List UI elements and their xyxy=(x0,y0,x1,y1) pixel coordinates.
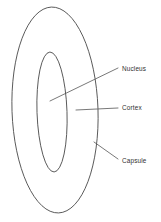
diagram-canvas: Nucleus Cortex Capsule xyxy=(0,0,161,222)
nucleus-leader-line xyxy=(50,68,118,101)
nucleus-inner-ellipse xyxy=(35,52,69,173)
capsule-outer-ellipse xyxy=(8,6,101,215)
lymph-node-diagram: Nucleus Cortex Capsule xyxy=(0,0,161,222)
capsule-label: Capsule xyxy=(122,157,147,165)
nucleus-label: Nucleus xyxy=(122,65,146,72)
cortex-label: Cortex xyxy=(122,104,142,111)
capsule-leader-line xyxy=(94,142,118,159)
cortex-leader-line xyxy=(76,108,118,110)
